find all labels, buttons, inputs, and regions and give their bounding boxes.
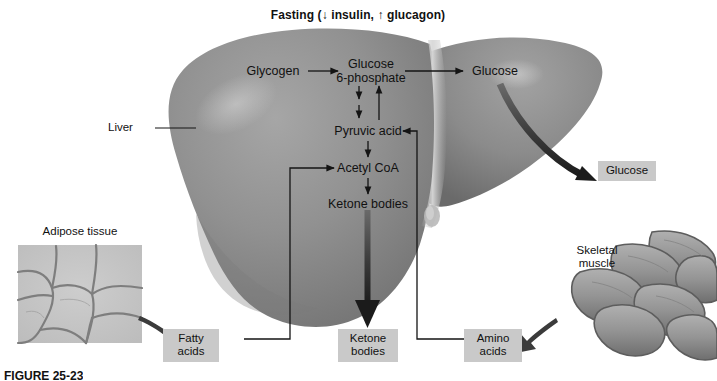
- figure-caption: FIGURE 25-23: [4, 369, 83, 381]
- pathway-node-glucose-6-phosphate: Glucose 6-phosphate: [336, 57, 406, 85]
- g6p-line1: Glucose: [348, 57, 394, 71]
- fatty-acids-line1: Fatty: [178, 332, 204, 344]
- adipose-tissue-label: Adipose tissue: [43, 225, 118, 238]
- amino-acids-line2: acids: [480, 345, 507, 357]
- output-box-ketone-bodies: Ketone bodies: [338, 329, 398, 362]
- pathway-node-glycogen: Glycogen: [247, 64, 300, 78]
- output-box-amino-acids: Amino acids: [464, 329, 522, 362]
- ketone-bodies-line2: bodies: [351, 345, 385, 357]
- skeletal-muscle-label-line1: Skeletal: [577, 244, 618, 256]
- figure-title: Fasting (↓ insulin, ↑ glucagon): [271, 9, 445, 22]
- pathway-node-pyruvic-acid: Pyruvic acid: [334, 124, 401, 138]
- pathway-node-ketone-bodies-internal: Ketone bodies: [328, 197, 408, 211]
- adipose-tissue-illustration: [18, 245, 142, 343]
- skeletal-muscle-label: Skeletal muscle: [577, 244, 618, 270]
- ketone-bodies-line1: Ketone: [350, 332, 386, 344]
- pathway-node-glucose-internal: Glucose: [472, 64, 518, 78]
- output-box-glucose: Glucose: [598, 161, 656, 181]
- skeletal-muscle-label-line2: muscle: [579, 257, 615, 269]
- liver-label: Liver: [108, 121, 133, 134]
- fatty-acids-line2: acids: [178, 345, 205, 357]
- amino-acids-line1: Amino: [477, 332, 510, 344]
- output-box-fatty-acids: Fatty acids: [163, 329, 219, 362]
- g6p-line2: 6-phosphate: [336, 71, 406, 85]
- figure-canvas: Fasting (↓ insulin, ↑ glucagon) Liver Ad…: [0, 0, 717, 381]
- pathway-node-acetyl-coa: Acetyl CoA: [337, 161, 399, 175]
